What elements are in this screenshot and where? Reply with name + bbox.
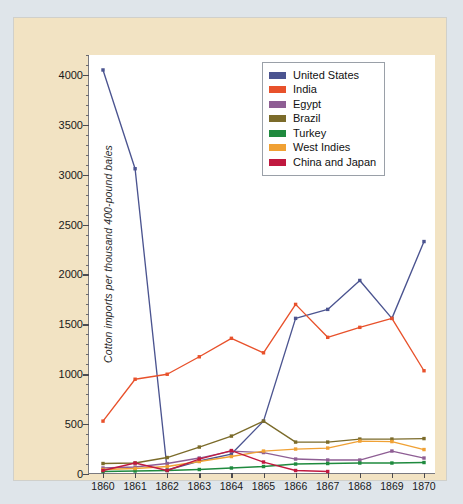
y-minor-tick xyxy=(86,265,90,266)
x-tick-label: 1860 xyxy=(91,480,114,492)
y-tick-label: 2000 xyxy=(59,268,83,280)
y-tick-mark xyxy=(83,75,89,76)
y-axis-label: Cotton imports per thousand 400-pound ba… xyxy=(102,89,114,419)
y-minor-tick xyxy=(86,55,90,56)
y-tick-mark xyxy=(83,424,89,425)
x-tick-mark xyxy=(360,473,361,478)
y-tick-label: 3000 xyxy=(59,169,83,181)
legend-label: Egypt xyxy=(293,99,321,110)
legend-swatch-icon xyxy=(269,72,286,79)
legend-label: China and Japan xyxy=(293,157,376,168)
y-minor-tick xyxy=(86,155,90,156)
legend-swatch-icon xyxy=(269,101,286,108)
legend-item: India xyxy=(269,83,376,98)
y-tick-label: 4000 xyxy=(59,69,83,81)
y-minor-tick xyxy=(86,205,90,206)
x-tick-label: 1867 xyxy=(316,480,339,492)
legend-item: China and Japan xyxy=(269,155,376,170)
y-minor-tick xyxy=(86,454,90,455)
legend-swatch-icon xyxy=(269,144,286,151)
x-tick-label: 1863 xyxy=(188,480,211,492)
y-minor-tick xyxy=(86,414,90,415)
x-tick-mark xyxy=(264,473,265,478)
y-tick-label: 2500 xyxy=(59,219,83,231)
x-tick-label: 1862 xyxy=(156,480,179,492)
y-minor-tick xyxy=(86,195,90,196)
y-minor-tick xyxy=(86,145,90,146)
x-tick-mark xyxy=(103,473,104,478)
chart-legend: United StatesIndiaEgyptBrazilTurkeyWest … xyxy=(262,62,385,176)
legend-swatch-icon xyxy=(269,130,286,137)
y-minor-tick xyxy=(86,255,90,256)
y-tick-mark xyxy=(83,474,89,475)
y-tick-label: 1500 xyxy=(59,318,83,330)
x-tick-mark xyxy=(199,473,200,478)
y-minor-tick xyxy=(86,284,90,285)
y-minor-tick xyxy=(86,105,90,106)
y-minor-tick xyxy=(86,215,90,216)
x-tick-mark xyxy=(231,473,232,478)
x-tick-label: 1861 xyxy=(123,480,146,492)
y-tick-mark xyxy=(83,274,89,275)
y-minor-tick xyxy=(86,165,90,166)
y-minor-tick xyxy=(86,115,90,116)
y-minor-tick xyxy=(86,65,90,66)
x-tick-label: 1864 xyxy=(220,480,243,492)
legend-swatch-icon xyxy=(269,86,286,93)
x-tick-mark xyxy=(392,473,393,478)
x-tick-mark xyxy=(135,473,136,478)
legend-label: West Indies xyxy=(293,142,350,153)
x-tick-mark xyxy=(424,473,425,478)
legend-label: Turkey xyxy=(293,128,326,139)
y-minor-tick xyxy=(86,344,90,345)
x-tick-label: 1870 xyxy=(412,480,435,492)
y-minor-tick xyxy=(86,135,90,136)
y-minor-tick xyxy=(86,404,90,405)
y-minor-tick xyxy=(86,334,90,335)
x-tick-label: 1869 xyxy=(380,480,403,492)
y-minor-tick xyxy=(86,354,90,355)
y-tick-mark xyxy=(83,374,89,375)
y-tick-mark xyxy=(83,324,89,325)
series-india xyxy=(101,303,425,423)
legend-label: Brazil xyxy=(293,113,321,124)
legend-swatch-icon xyxy=(269,159,286,166)
legend-item: United States xyxy=(269,68,376,83)
legend-item: Brazil xyxy=(269,112,376,127)
legend-item: West Indies xyxy=(269,141,376,156)
y-minor-tick xyxy=(86,444,90,445)
legend-swatch-icon xyxy=(269,115,286,122)
x-tick-label: 1868 xyxy=(348,480,371,492)
series-brazil xyxy=(101,419,425,465)
y-minor-tick xyxy=(86,384,90,385)
legend-label: India xyxy=(293,84,317,95)
y-minor-tick xyxy=(86,185,90,186)
x-tick-mark xyxy=(296,473,297,478)
x-tick-mark xyxy=(167,473,168,478)
y-tick-mark xyxy=(83,125,89,126)
y-minor-tick xyxy=(86,364,90,365)
y-minor-tick xyxy=(86,304,90,305)
y-minor-tick xyxy=(86,314,90,315)
x-tick-label: 1865 xyxy=(252,480,275,492)
y-tick-label: 1000 xyxy=(59,368,83,380)
chart-screenshot: 05001000150020002500300035004000 1860186… xyxy=(0,0,463,504)
legend-label: United States xyxy=(293,70,359,81)
x-tick-mark xyxy=(328,473,329,478)
y-minor-tick xyxy=(86,294,90,295)
y-tick-mark xyxy=(83,175,89,176)
y-minor-tick xyxy=(86,434,90,435)
legend-item: Egypt xyxy=(269,97,376,112)
y-minor-tick xyxy=(86,95,90,96)
y-tick-mark xyxy=(83,225,89,226)
y-tick-label: 3500 xyxy=(59,119,83,131)
y-minor-tick xyxy=(86,394,90,395)
y-minor-tick xyxy=(86,245,90,246)
figure-panel: 05001000150020002500300035004000 1860186… xyxy=(14,18,446,480)
legend-item: Turkey xyxy=(269,126,376,141)
y-tick-label: 500 xyxy=(65,418,83,430)
y-minor-tick xyxy=(86,235,90,236)
y-minor-tick xyxy=(86,464,90,465)
y-minor-tick xyxy=(86,85,90,86)
x-tick-label: 1866 xyxy=(284,480,307,492)
